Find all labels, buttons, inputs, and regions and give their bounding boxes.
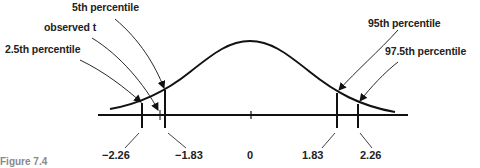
label-5th-percentile: 5th percentile [72,1,139,13]
arrow-2-5th [80,60,141,102]
arrow-97-5th [360,62,398,101]
label-97-5th-percentile: 97.5th percentile [385,45,466,57]
label-95th-percentile: 95th percentile [368,17,441,29]
tick-neg-1-83: −1.83 [175,149,203,161]
label-observed-t: observed t [44,21,96,33]
arrow-95th [339,30,398,90]
arrow-5th [115,19,164,88]
label-2-5th-percentile: 2.5th percentile [5,43,80,55]
arrow-observed [92,38,158,110]
tick-neg-2-26: −2.26 [102,149,130,161]
figure-caption: Figure 7.4 [0,156,47,167]
tick-1-83: 1.83 [302,149,323,161]
tick-zero: 0 [247,149,253,161]
tick-2-26: 2.26 [360,149,381,161]
